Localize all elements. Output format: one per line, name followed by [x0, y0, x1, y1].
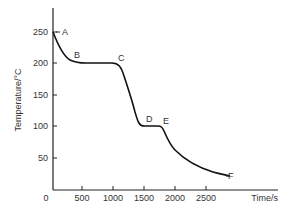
point-label-d: D — [146, 114, 153, 124]
cooling-curve-chart: 50 100 150 200 250 0 500 1000 1500 2000 … — [0, 0, 289, 210]
x-tick-label: 2000 — [165, 193, 185, 203]
y-tick-label: 250 — [33, 27, 48, 37]
y-tick-label: 100 — [33, 121, 48, 131]
point-label-a: A — [62, 27, 68, 37]
point-label-b: B — [74, 50, 80, 60]
point-labels: A B C D E F — [56, 27, 234, 181]
y-axis-label: Temperature/°C — [13, 68, 23, 132]
point-label-f: F — [228, 171, 234, 181]
point-label-c: C — [118, 53, 125, 63]
x-tick-label: 500 — [74, 193, 89, 203]
point-label-e: E — [163, 116, 169, 126]
y-tick-labels: 50 100 150 200 250 — [33, 27, 48, 163]
origin-label: 0 — [43, 193, 48, 203]
x-tick-label: 1000 — [103, 193, 123, 203]
y-tick-label: 50 — [38, 153, 48, 163]
y-tick-label: 150 — [33, 90, 48, 100]
x-tick-label: 1500 — [134, 193, 154, 203]
x-axis-label: Time/s — [251, 193, 278, 203]
x-tick-label: 2500 — [196, 193, 216, 203]
x-tick-labels: 0 500 1000 1500 2000 2500 — [43, 193, 216, 203]
y-tick-label: 200 — [33, 58, 48, 68]
